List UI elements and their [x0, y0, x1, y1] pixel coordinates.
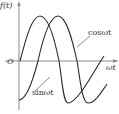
origin-label: O [7, 58, 14, 66]
cos-curve-label: cosωt [88, 29, 111, 37]
sin-curve-label: sinωt [32, 89, 54, 97]
y-axis-arrow-icon [17, 1, 20, 6]
cos-label-pointer [77, 36, 90, 47]
y-axis-label: f(t) [0, 2, 12, 10]
waveform-diagram [0, 0, 119, 114]
x-axis-label: ωt [106, 64, 116, 72]
